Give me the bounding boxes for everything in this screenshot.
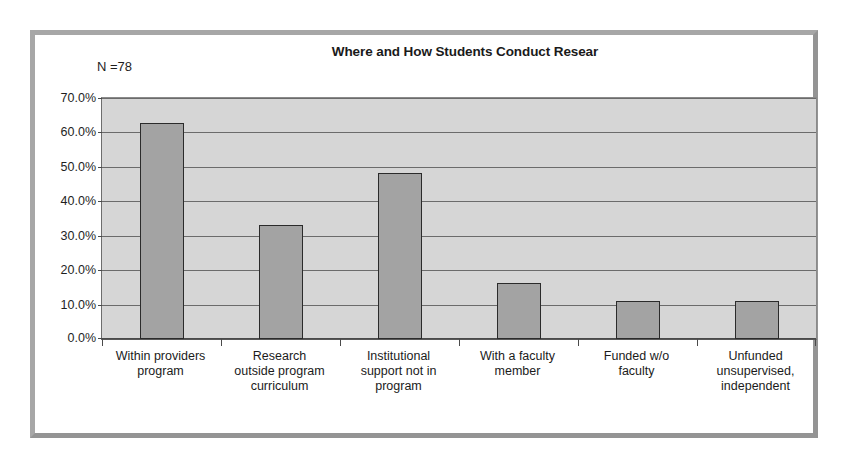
x-tick-mark bbox=[578, 339, 579, 346]
gridline-40.0 bbox=[102, 201, 816, 202]
gridline-10.0 bbox=[102, 305, 816, 306]
bar-1 bbox=[140, 123, 184, 339]
bar-3 bbox=[378, 173, 422, 339]
gridline-70.0 bbox=[102, 98, 816, 99]
y-axis-tick-label: 50.0% bbox=[61, 160, 96, 174]
sample-size-annotation: N =78 bbox=[97, 59, 132, 74]
y-tick-mark bbox=[98, 167, 102, 168]
x-axis-category-label-5: Funded w/o faculty bbox=[577, 349, 696, 379]
bar-2 bbox=[259, 225, 303, 339]
gridline-60.0 bbox=[102, 132, 816, 133]
x-tick-mark bbox=[459, 339, 460, 346]
x-axis-category-label-6: Unfunded unsupervised, independent bbox=[696, 349, 815, 394]
y-axis-tick-label: 60.0% bbox=[61, 125, 96, 139]
plot-area: 0.0%10.0%20.0%30.0%40.0%50.0%60.0%70.0% bbox=[101, 97, 817, 340]
y-tick-mark bbox=[98, 98, 102, 99]
y-axis-tick-label: 30.0% bbox=[61, 229, 96, 243]
y-axis-tick-label: 40.0% bbox=[61, 194, 96, 208]
figure-canvas: Where and How Students Conduct Resear N … bbox=[35, 35, 813, 433]
x-axis-category-label-1: Within providers program bbox=[101, 349, 220, 379]
x-axis-category-label-3: Institutional support not in program bbox=[339, 349, 458, 394]
y-axis-tick-label: 70.0% bbox=[61, 91, 96, 105]
y-tick-mark bbox=[98, 132, 102, 133]
x-axis-category-label-4: With a faculty member bbox=[458, 349, 577, 379]
figure-frame: Where and How Students Conduct Resear N … bbox=[30, 30, 818, 438]
bar-4 bbox=[497, 283, 541, 339]
y-axis-tick-label: 10.0% bbox=[61, 298, 96, 312]
gridline-30.0 bbox=[102, 236, 816, 237]
gridline-20.0 bbox=[102, 270, 816, 271]
bar-6 bbox=[735, 301, 779, 339]
y-tick-mark bbox=[98, 305, 102, 306]
y-tick-mark bbox=[98, 201, 102, 202]
chart-title: Where and How Students Conduct Resear bbox=[185, 44, 745, 59]
x-tick-mark bbox=[697, 339, 698, 346]
y-axis-tick-label: 20.0% bbox=[61, 263, 96, 277]
y-tick-mark bbox=[98, 236, 102, 237]
y-tick-mark bbox=[98, 270, 102, 271]
bar-5 bbox=[616, 301, 660, 339]
x-tick-mark bbox=[340, 339, 341, 346]
gridline-50.0 bbox=[102, 167, 816, 168]
x-tick-mark bbox=[815, 339, 816, 346]
x-axis-category-label-2: Research outside program curriculum bbox=[220, 349, 339, 394]
y-axis-tick-label: 0.0% bbox=[68, 331, 97, 345]
x-tick-mark bbox=[221, 339, 222, 346]
x-tick-mark bbox=[102, 339, 103, 346]
